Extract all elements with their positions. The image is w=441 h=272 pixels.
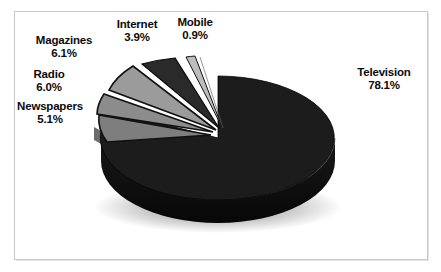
label-magazines-name: Magazines bbox=[20, 34, 108, 47]
label-radio: Radio 6.0% bbox=[8, 68, 90, 94]
label-television: Television 78.1% bbox=[340, 66, 428, 92]
pie-chart-image: Magazines 6.1% Internet 3.9% Mobile 0.9%… bbox=[0, 0, 441, 272]
label-internet: Internet 3.9% bbox=[104, 18, 170, 44]
label-radio-name: Radio bbox=[8, 68, 90, 81]
label-television-percent: 78.1% bbox=[340, 79, 428, 92]
label-radio-percent: 6.0% bbox=[8, 81, 90, 94]
label-newspapers: Newspapers 5.1% bbox=[2, 100, 98, 126]
label-magazines-percent: 6.1% bbox=[20, 47, 108, 60]
label-television-name: Television bbox=[340, 66, 428, 79]
label-mobile: Mobile 0.9% bbox=[166, 16, 224, 42]
label-magazines: Magazines 6.1% bbox=[20, 34, 108, 60]
label-internet-name: Internet bbox=[104, 18, 170, 31]
label-newspapers-percent: 5.1% bbox=[2, 113, 98, 126]
label-internet-percent: 3.9% bbox=[104, 31, 170, 44]
label-mobile-percent: 0.9% bbox=[166, 29, 224, 42]
label-newspapers-name: Newspapers bbox=[2, 100, 98, 113]
label-mobile-name: Mobile bbox=[166, 16, 224, 29]
